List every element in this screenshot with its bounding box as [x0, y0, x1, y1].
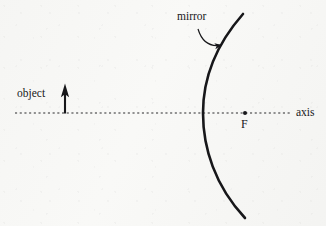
- object-arrow: [61, 84, 69, 114]
- mirror-label: mirror: [177, 11, 206, 23]
- axis-label: axis: [296, 107, 315, 119]
- focal-point-label: F: [241, 118, 248, 130]
- focal-point-marker: [243, 111, 247, 115]
- mirror-callout-arrow: [198, 29, 221, 46]
- diagram-canvas: [0, 0, 326, 226]
- optics-diagram-figure: object mirror axis F: [0, 0, 326, 226]
- object-label: object: [17, 88, 45, 100]
